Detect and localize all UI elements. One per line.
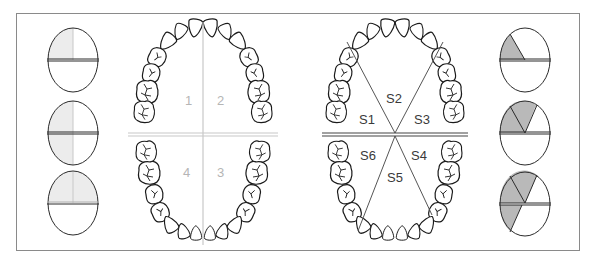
sextant-lower-arch	[328, 141, 462, 240]
quadrant-label-1: 1	[185, 93, 192, 108]
sextant-label-s3: S3	[414, 112, 430, 127]
right-icon-1-sextant	[499, 28, 551, 92]
left-icon-2-quadrants	[47, 101, 99, 165]
sextant-label-s1: S1	[359, 112, 375, 127]
sextant-label-s2: S2	[386, 91, 402, 106]
left-icon-upper-half	[47, 171, 99, 235]
quadrant-label-4: 4	[183, 165, 190, 180]
quadrant-label-2: 2	[217, 93, 224, 108]
sextant-label-s6: S6	[360, 148, 376, 163]
right-icon-3-sextants	[499, 170, 551, 236]
left-icon-1-quadrant	[47, 28, 99, 92]
sextant-label-s5: S5	[387, 170, 403, 185]
dental-quadrant-sextant-figure: 1 2 3 4 S1 S2 S3 S4 S5 S6	[0, 0, 601, 262]
figure-canvas: 1 2 3 4 S1 S2 S3 S4 S5 S6	[0, 0, 601, 262]
right-icon-2-sextants	[499, 101, 551, 165]
quadrant-label-3: 3	[217, 165, 224, 180]
sextant-upper-arch	[326, 18, 464, 123]
sextant-label-s4: S4	[411, 148, 427, 163]
